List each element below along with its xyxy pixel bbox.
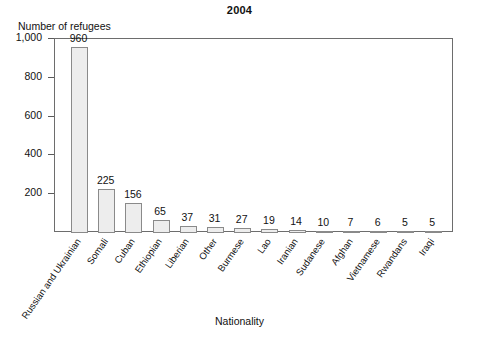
- y-axis-tick-label: 400: [24, 147, 42, 159]
- x-axis-title: Nationality: [0, 315, 479, 327]
- chart-title: 2004: [0, 4, 479, 16]
- bar: [71, 47, 88, 233]
- y-axis-tick-label: 600: [24, 109, 42, 121]
- y-axis-tick-label: 800: [24, 70, 42, 82]
- bar-value-label: 14: [290, 215, 302, 227]
- y-axis-tick-label: 1,000: [16, 31, 42, 43]
- bar-value-label: 225: [97, 174, 115, 186]
- x-axis-category-label-text: Russian and Ukrainian: [19, 236, 83, 321]
- x-axis-category-label-text: Iraqi: [416, 236, 436, 257]
- x-axis-category-label-text: Lao: [255, 236, 273, 255]
- y-axis-tick-label: 200: [24, 186, 42, 198]
- bar-value-label: 960: [70, 32, 88, 44]
- bar-value-label: 65: [154, 205, 166, 217]
- bar-value-label: 27: [236, 213, 248, 225]
- chart-figure: 2004 Number of refugees 2004006008001,00…: [0, 0, 479, 348]
